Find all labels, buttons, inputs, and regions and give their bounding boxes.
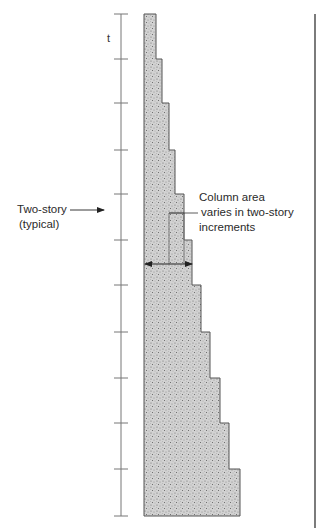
two-story-label: Two-story (typical) bbox=[17, 202, 67, 232]
stepped-column-profile bbox=[144, 14, 240, 516]
time-axis bbox=[114, 14, 128, 516]
two-story-label-line1: Two-story bbox=[17, 202, 67, 217]
column-area-label: Column area varies in two-story incremen… bbox=[199, 190, 294, 235]
axis-label-t: t bbox=[107, 32, 110, 44]
two-story-label-line2: (typical) bbox=[17, 217, 67, 232]
column-fill bbox=[144, 14, 240, 516]
column-area-label-line3: increments bbox=[199, 220, 294, 235]
diagram-canvas bbox=[0, 0, 317, 528]
column-area-label-line1: Column area bbox=[199, 190, 294, 205]
column-area-label-line2: varies in two-story bbox=[199, 205, 294, 220]
